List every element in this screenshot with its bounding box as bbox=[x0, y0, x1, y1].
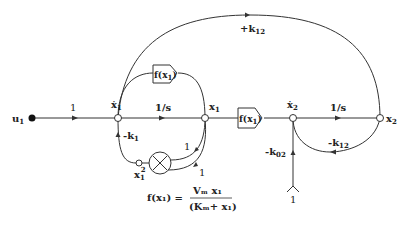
arrow-k02-icon bbox=[291, 150, 296, 155]
label-x2: x2 bbox=[386, 113, 397, 126]
label-integrator-2: 1/s bbox=[330, 102, 347, 113]
block-f-top: f(x1) bbox=[153, 65, 177, 83]
node-x2 bbox=[377, 115, 384, 122]
equation-lhs: f(x₁) = bbox=[147, 192, 183, 203]
arrow-k1-icon bbox=[116, 132, 121, 137]
label-mult-in-b: 1 bbox=[199, 167, 205, 178]
label-source: 1 bbox=[290, 194, 296, 205]
label-k12-loop: -k12 bbox=[328, 137, 349, 150]
label-gain-1: 1 bbox=[70, 102, 76, 113]
label-k02: -k02 bbox=[265, 146, 286, 159]
label-k12-top: +k12 bbox=[240, 23, 265, 36]
label-k1: -k1 bbox=[123, 130, 139, 143]
signal-flow-diagram: +k12 f(x1) f(x1) 1 1/s 1/s 1 1 -k1 x12 -… bbox=[0, 0, 409, 226]
label-u1: u1 bbox=[12, 113, 24, 126]
label-integrator-1: 1/s bbox=[155, 102, 172, 113]
label-x2dot: ẋ2 bbox=[287, 99, 298, 112]
label-x1-squared: x12 bbox=[134, 165, 146, 182]
arrow-k12-top-icon bbox=[245, 13, 250, 18]
label-mult-in-a: 1 bbox=[184, 141, 190, 152]
arrow-k12-loop-icon bbox=[330, 150, 336, 155]
edge-mult-in-a bbox=[171, 118, 205, 160]
arrow-int2-icon bbox=[335, 116, 341, 121]
node-x1 bbox=[202, 115, 209, 122]
equation: f(x₁) = Vₘ x₁ (Kₘ+ x₁) bbox=[147, 185, 237, 212]
multiplier-node bbox=[149, 152, 171, 174]
label-x1: x1 bbox=[209, 101, 220, 114]
node-u1 bbox=[29, 115, 36, 122]
equation-denominator: (Kₘ+ x₁) bbox=[189, 201, 237, 212]
arrow-int1-icon bbox=[159, 116, 165, 121]
block-f-mid: f(x1) bbox=[238, 108, 264, 128]
node-x2dot bbox=[290, 115, 297, 122]
source-symbol-icon bbox=[287, 186, 299, 192]
node-x1dot bbox=[115, 115, 122, 122]
equation-numerator: Vₘ x₁ bbox=[192, 185, 222, 196]
arrow-u1-icon bbox=[72, 116, 78, 121]
